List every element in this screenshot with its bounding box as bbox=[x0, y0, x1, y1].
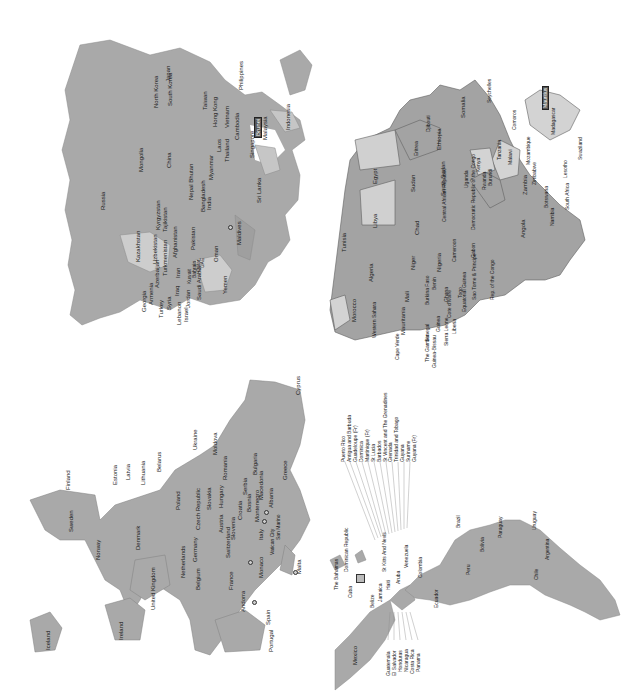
country-label: Greece bbox=[282, 460, 288, 480]
country-label: Burundi bbox=[488, 169, 493, 186]
country-label: Rep. of the Congo bbox=[490, 259, 495, 300]
country-label: Kenya bbox=[476, 158, 481, 172]
country-label: Sao Tome & Principe bbox=[472, 253, 477, 300]
country-label: The Gambia bbox=[425, 334, 430, 362]
country-label: Macedonia bbox=[258, 471, 264, 500]
country-label: Pakistan bbox=[190, 227, 196, 250]
country-label: Eritrea bbox=[414, 141, 419, 156]
country-label: United Kingdom bbox=[150, 567, 156, 610]
country-label: Panama bbox=[416, 653, 421, 672]
country-label: Nigeria bbox=[436, 253, 442, 272]
country-label: Nepal Bhutan bbox=[188, 164, 194, 200]
country-label: Madagascar bbox=[551, 107, 556, 135]
country-label: Austria bbox=[218, 514, 224, 533]
country-label: Chad bbox=[414, 221, 420, 235]
country-label: Malaysia bbox=[262, 116, 268, 140]
maldives-marker bbox=[228, 225, 233, 230]
country-label: Cape Verde bbox=[395, 334, 400, 360]
country-label: Chile bbox=[534, 569, 539, 580]
country-label: Indonesia bbox=[285, 104, 291, 130]
country-label: Mexico bbox=[352, 646, 358, 665]
country-label: Zambia bbox=[522, 175, 528, 195]
country-label: Czech Republic bbox=[195, 488, 201, 530]
country-label: France bbox=[228, 571, 234, 590]
country-label: Jordan bbox=[185, 290, 191, 308]
country-label: Djibouti bbox=[426, 115, 431, 132]
country-label: Sweden bbox=[68, 510, 74, 532]
country-label: Guyana (Fr) bbox=[412, 435, 417, 462]
country-label: Swaziland bbox=[578, 137, 583, 160]
country-label: Japan bbox=[165, 66, 171, 82]
country-label: Kazakhstan bbox=[135, 231, 141, 262]
africa-map bbox=[330, 80, 585, 340]
country-label: Venezuela bbox=[404, 545, 409, 568]
country-label: Argentina bbox=[545, 539, 550, 560]
country-label: Burkina Faso bbox=[425, 276, 430, 305]
country-label: Uganda bbox=[464, 170, 469, 188]
country-label: Sudan bbox=[410, 175, 416, 192]
country-label: Peru bbox=[466, 564, 471, 575]
country-label: Gabon bbox=[471, 243, 476, 258]
country-label: Zimbabwe bbox=[532, 162, 537, 185]
country-label: Israel bbox=[183, 307, 189, 322]
country-label: Serbia bbox=[242, 478, 248, 495]
country-label: Romania bbox=[222, 456, 228, 480]
country-label: Morocco bbox=[351, 299, 357, 322]
country-label: Sierra Leone bbox=[444, 317, 449, 346]
country-label: San Marino bbox=[276, 514, 281, 540]
country-label: Tanzania bbox=[497, 140, 502, 160]
country-label: Latvia bbox=[125, 464, 131, 480]
country-label: Iran bbox=[175, 268, 181, 278]
country-label: Bulgaria bbox=[252, 453, 258, 475]
country-label: Ecuador bbox=[434, 589, 439, 608]
country-label: Botswana bbox=[544, 186, 549, 208]
country-label: North Korea bbox=[153, 76, 159, 108]
country-label: Mauritania bbox=[400, 307, 406, 335]
country-label: China bbox=[166, 152, 172, 168]
country-label: Hong Kong bbox=[212, 97, 218, 127]
malta-marker bbox=[293, 570, 298, 575]
monaco-marker bbox=[248, 560, 253, 565]
country-label: Cambodia bbox=[234, 113, 240, 140]
world-regions-map-figure: Russia Mongolia China Kazakhstan Uzbekis… bbox=[0, 0, 638, 694]
country-label: Estonia bbox=[112, 465, 118, 485]
country-label: Yemen bbox=[222, 276, 228, 294]
country-label: Norway bbox=[95, 540, 101, 560]
country-label: Finland bbox=[65, 470, 71, 490]
country-label: Equatorial Guinea bbox=[462, 272, 467, 312]
country-label: Turkey bbox=[158, 300, 164, 318]
country-label: Jamaica bbox=[378, 583, 383, 602]
country-label: Azerbaijan bbox=[154, 260, 160, 288]
country-label: Netherlands bbox=[180, 546, 186, 578]
country-label: Iceland bbox=[45, 631, 51, 650]
country-label: Belize bbox=[370, 594, 375, 608]
country-label: Brunei bbox=[254, 117, 262, 138]
country-label: Lithuania bbox=[140, 461, 146, 485]
country-label: Paraguay bbox=[498, 517, 503, 538]
country-label: Sri Lanka bbox=[256, 178, 262, 203]
country-label: Brazil bbox=[456, 515, 461, 528]
country-label: Aruba bbox=[396, 571, 401, 584]
country-label: Albania bbox=[268, 488, 274, 508]
country-label: Portugal bbox=[268, 630, 274, 652]
country-label: Egypt bbox=[372, 169, 378, 184]
country-label: Poland bbox=[175, 491, 181, 510]
bahamas-marker bbox=[356, 574, 365, 583]
country-label: Syria bbox=[166, 296, 172, 310]
vatican-marker bbox=[262, 519, 267, 524]
country-label: Saudi Arabia bbox=[196, 266, 202, 300]
country-label: Somalia bbox=[460, 96, 466, 118]
country-label: Turkmenistan bbox=[162, 240, 168, 276]
country-label: Belarus bbox=[156, 452, 162, 472]
country-label: Lebanon bbox=[176, 302, 182, 325]
country-label: Oman bbox=[213, 246, 219, 262]
country-label: Belgium bbox=[195, 568, 201, 590]
country-label: Angola bbox=[520, 219, 526, 238]
country-label: Liberia bbox=[452, 319, 457, 334]
country-label: Kyrgyzstan bbox=[155, 200, 161, 230]
country-label: Bolivia bbox=[480, 537, 485, 552]
country-label: Lesotho bbox=[563, 160, 568, 178]
country-label: India bbox=[206, 197, 212, 210]
country-label: St Kitts And Nevis bbox=[382, 532, 387, 572]
country-label: Bangladesh bbox=[200, 180, 206, 212]
